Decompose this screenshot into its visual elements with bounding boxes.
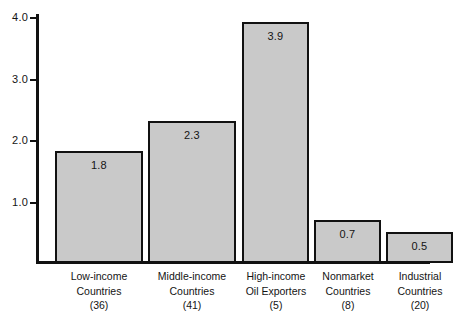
y-axis-tick-label-2: 2.0 — [0, 135, 28, 146]
x-axis-category-industrial-countries: Industrial Countries (20) — [372, 269, 457, 313]
bar-value-label: 2.3 — [150, 130, 234, 141]
y-axis-tick-label-1: 1.0 — [0, 197, 28, 208]
y-axis-tick-3 — [30, 79, 39, 81]
category-name-line2: Countries — [372, 284, 457, 299]
category-name-line1: Low-income — [47, 269, 151, 284]
y-axis-tick-label-4: 4.0 — [0, 12, 28, 23]
category-count: (36) — [47, 298, 151, 313]
bar-value-label: 0.5 — [388, 241, 451, 252]
y-axis-tick-2 — [30, 140, 39, 142]
y-axis-tick-label-3: 3.0 — [0, 74, 28, 85]
bar-industrial-countries[interactable]: 0.5 — [386, 232, 453, 263]
category-name-line1: Industrial — [372, 269, 457, 284]
category-count: (20) — [372, 298, 457, 313]
bar-value-label: 1.8 — [57, 160, 141, 171]
bar-value-label: 3.9 — [244, 31, 307, 42]
category-name-line2: Countries — [47, 284, 151, 299]
bar-value-label: 0.7 — [316, 229, 379, 240]
bar-low-income-countries[interactable]: 1.8 — [55, 151, 143, 263]
x-axis-category-low-income-countries: Low-income Countries (36) — [47, 269, 151, 313]
bar-middle-income-countries[interactable]: 2.3 — [148, 121, 236, 263]
bar-high-income-oil-exporters[interactable]: 3.9 — [242, 22, 309, 263]
y-axis-tick-1 — [30, 202, 39, 204]
bar-nonmarket-countries[interactable]: 0.7 — [314, 220, 381, 263]
y-axis-line — [36, 14, 39, 264]
y-axis-tick-4 — [30, 17, 39, 19]
